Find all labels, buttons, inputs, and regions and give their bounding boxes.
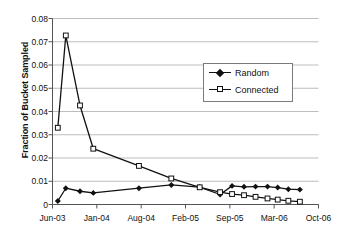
data-point-marker — [275, 197, 280, 202]
x-tick-label: Feb-05 — [172, 213, 199, 223]
data-point-marker — [169, 176, 174, 181]
data-point-marker — [218, 190, 223, 195]
chart-container: Fraction of Bucket Sampled 0.080.070.060… — [0, 0, 339, 240]
data-point-marker — [63, 33, 68, 38]
legend-label-random: Random — [231, 68, 269, 78]
x-tick-label: Oct-06 — [306, 213, 332, 223]
legend-item-connected: Connected — [204, 81, 292, 98]
x-tick-label: Sep-05 — [216, 213, 243, 223]
x-tick-label: Jan-04 — [84, 213, 110, 223]
data-point-marker — [136, 185, 142, 191]
data-point-marker — [55, 125, 60, 130]
x-tick-label: Mar-06 — [261, 213, 288, 223]
data-point-marker — [297, 187, 303, 193]
data-point-marker — [63, 185, 69, 191]
data-point-marker — [286, 198, 291, 203]
legend-marker-filled-diamond-icon — [209, 67, 231, 78]
data-point-marker — [297, 199, 302, 204]
data-point-marker — [78, 103, 83, 108]
data-point-marker — [137, 164, 142, 169]
data-point-marker — [285, 186, 291, 192]
legend-item-random: Random — [204, 64, 292, 81]
data-point-marker — [241, 184, 247, 190]
legend-marker-open-square-icon — [209, 84, 231, 95]
data-point-marker — [265, 184, 271, 190]
data-point-marker — [265, 196, 270, 201]
series-line — [58, 35, 300, 201]
data-point-marker — [91, 146, 96, 151]
data-point-marker — [275, 185, 281, 191]
series-connected — [55, 33, 302, 204]
data-point-marker — [197, 185, 202, 190]
legend-label-connected: Connected — [231, 85, 279, 95]
data-point-marker — [253, 184, 259, 190]
data-point-marker — [90, 190, 96, 196]
data-point-marker — [253, 194, 258, 199]
data-point-marker — [168, 182, 174, 188]
data-point-marker — [242, 193, 247, 198]
x-tick-label: Jun-03 — [40, 213, 66, 223]
plot-area — [0, 0, 339, 240]
data-series-layer — [55, 33, 303, 204]
data-point-marker — [230, 192, 235, 197]
data-point-marker — [55, 198, 61, 204]
data-point-marker — [77, 188, 83, 194]
x-axis-ticks — [49, 19, 319, 209]
chart-legend: Random Connected — [203, 63, 293, 102]
x-tick-label: Aug-04 — [127, 213, 154, 223]
